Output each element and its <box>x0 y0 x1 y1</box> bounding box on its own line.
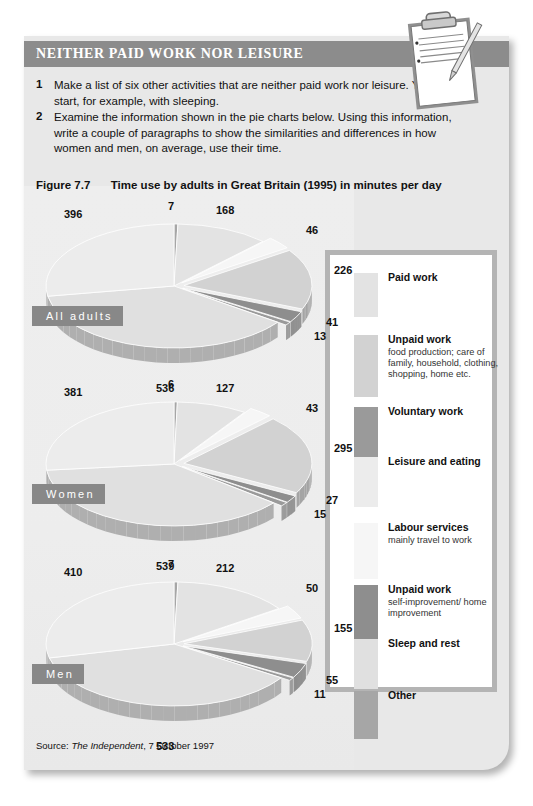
pie-slice-value-label: 226 <box>334 264 352 276</box>
legend-label-wrap: Unpaid workfood production; care of fami… <box>388 333 508 380</box>
legend-label-wrap: Paid work <box>388 271 508 284</box>
legend-subtitle: self-improvement/ home improvement <box>388 597 508 619</box>
pie-slice-value-label: 533 <box>156 740 174 752</box>
pie-group-label-men: Men <box>32 664 84 684</box>
legend-title: Leisure and eating <box>388 455 508 468</box>
pie-group-label-women: Women <box>32 484 105 504</box>
pie-slice-value-label: 381 <box>64 386 82 398</box>
legend-color-swatch <box>354 639 378 689</box>
pie-slice <box>46 224 174 296</box>
pie-slice-value-label: 168 <box>216 204 234 216</box>
task-number: 2 <box>36 110 50 122</box>
page-title: NEITHER PAID WORK NOR LEISURE <box>36 46 303 62</box>
legend-title: Other <box>388 689 508 702</box>
pie-slice-value-label: 396 <box>64 208 82 220</box>
legend-color-swatch <box>354 335 378 397</box>
worksheet-panel: NEITHER PAID WORK NOR LEISURE 1 Make a l… <box>24 36 509 770</box>
pie-slice-value-label: 55 <box>326 674 338 686</box>
pie-slice-value-label: 50 <box>306 582 318 594</box>
source-prefix: Source: <box>36 740 69 751</box>
pie-slice-value-label: 27 <box>326 494 338 506</box>
legend-label-wrap: Leisure and eating <box>388 455 508 468</box>
legend-color-swatch <box>354 273 378 317</box>
figure-number: Figure 7.7 <box>36 179 90 191</box>
pie-slice-value-label: 13 <box>314 330 326 342</box>
legend-title: Unpaid work <box>388 333 508 346</box>
pie-slice-value-label: 212 <box>216 562 234 574</box>
pie-slice-value-label: 43 <box>306 402 318 414</box>
legend-label-wrap: Labour servicesmainly travel to work <box>388 521 508 546</box>
legend-title: Paid work <box>388 271 508 284</box>
clipboard-with-pencil-icon <box>398 6 498 118</box>
legend-title: Unpaid work <box>388 583 508 596</box>
pie-slice-value-label: 6 <box>168 378 174 390</box>
legend-subtitle: mainly travel to work <box>388 535 508 546</box>
figure-caption: Figure 7.7 Time use by adults in Great B… <box>36 175 442 193</box>
pie-slice-value-label: 46 <box>306 224 318 236</box>
pie-slice-value-label: 410 <box>64 566 82 578</box>
pie-slice-value-label: 295 <box>334 442 352 454</box>
pie-slice-value-label: 15 <box>314 508 326 520</box>
pie-slice-value-label: 127 <box>216 382 234 394</box>
pie-slice <box>46 402 174 470</box>
legend-title: Sleep and rest <box>388 637 508 650</box>
source-date: , 7 October 1997 <box>143 740 214 751</box>
pie-group-label-all-adults: All adults <box>32 306 123 326</box>
pie-slice-value-label: 7 <box>168 200 174 212</box>
legend-title: Voluntary work <box>388 405 508 418</box>
source-note: Source: The Independent, 7 October 1997 <box>36 740 214 751</box>
legend-label-wrap: Unpaid workself-improvement/ home improv… <box>388 583 508 619</box>
pie-slice-value-label: 41 <box>326 316 338 328</box>
legend-color-swatch <box>354 407 378 461</box>
legend-color-swatch <box>354 585 378 639</box>
figure-title: Time use by adults in Great Britain (199… <box>111 179 442 191</box>
legend-color-swatch <box>354 523 378 579</box>
source-publication: The Independent <box>71 740 143 751</box>
legend-color-swatch <box>354 457 378 507</box>
task-number: 1 <box>36 78 50 90</box>
legend-label-wrap: Other <box>388 689 508 702</box>
legend-subtitle: food production; care of family, househo… <box>388 347 508 380</box>
pie-slice-value-label: 7 <box>168 558 174 570</box>
pie-slice-value-label: 11 <box>314 688 326 700</box>
legend-label-wrap: Voluntary work <box>388 405 508 418</box>
legend-label-wrap: Sleep and rest <box>388 637 508 650</box>
legend-color-swatch <box>354 691 378 739</box>
legend-title: Labour services <box>388 521 508 534</box>
pie-slice-value-label: 155 <box>334 622 352 634</box>
